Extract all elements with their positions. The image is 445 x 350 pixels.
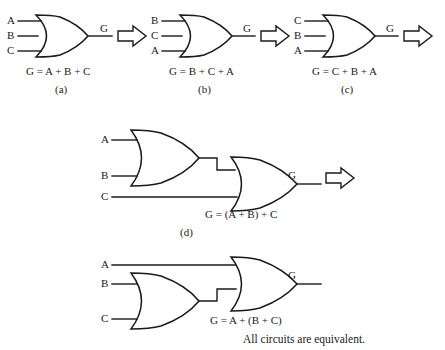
logic-circuit-figure: A B C G G = A + B + C (a) B C A G G = B … xyxy=(0,0,445,350)
circuit-a-input-label-3: C xyxy=(7,45,14,56)
circuit-b-input-label-1: B xyxy=(151,15,158,26)
circuit-e-output-label: G xyxy=(288,270,296,281)
circuit-a-gate xyxy=(36,15,88,57)
circuit-e-input-label-2: B xyxy=(101,278,108,289)
arrow-d-to-e xyxy=(326,168,354,188)
circuit-e-interconnect xyxy=(199,289,236,301)
circuit-e-equation: G = A + (B + C) xyxy=(210,315,282,326)
circuit-e-gate-1 xyxy=(131,273,199,329)
circuit-d-output-label: G xyxy=(288,170,296,181)
circuit-e-input-label-3: C xyxy=(101,313,108,324)
circuit-c-input-label-1: C xyxy=(294,15,301,26)
circuit-d-equation: G = (A + B) + C xyxy=(205,209,277,220)
circuit-b-equation: G = B + C + A xyxy=(169,66,234,77)
circuit-e-stage1-wires xyxy=(112,284,137,319)
circuit-c-equation: G = C + B + A xyxy=(312,66,377,77)
circuit-c-gate xyxy=(323,15,375,57)
circuit-d-gate-1 xyxy=(131,130,199,186)
circuit-c-caption: (c) xyxy=(341,84,353,95)
circuit-d-gate-2 xyxy=(231,157,297,211)
circuit-a-caption: (a) xyxy=(55,84,67,95)
arrow-c-to-d xyxy=(404,26,432,46)
circuit-c-output-label: G xyxy=(386,23,394,34)
circuit-d-interconnect xyxy=(199,158,235,170)
circuit-d-input-label-2: B xyxy=(101,170,108,181)
circuit-e-input-label-1: A xyxy=(101,259,109,270)
circuit-c-input-label-3: A xyxy=(294,45,302,56)
circuit-b-output-label: G xyxy=(243,23,251,34)
arrow-b-to-c xyxy=(261,26,289,46)
circuit-a-equation: G = A + B + C xyxy=(26,66,90,77)
circuit-d-stage1-wires xyxy=(112,140,137,176)
circuit-drawing-canvas xyxy=(0,0,445,350)
circuit-d-input-label-3: C xyxy=(101,191,108,202)
arrow-a-to-b xyxy=(118,26,146,46)
equivalence-note: All circuits are equivalent. xyxy=(243,334,365,346)
circuit-a-input-label-2: B xyxy=(7,30,14,41)
circuit-e-gate-2 xyxy=(231,257,297,311)
circuit-b-gate xyxy=(180,15,232,57)
circuit-b-caption: (b) xyxy=(198,84,211,95)
circuit-d-caption: (d) xyxy=(180,227,193,238)
circuit-b-input-label-3: A xyxy=(151,45,159,56)
circuit-d-input-label-1: A xyxy=(101,134,109,145)
circuit-b-input-label-2: C xyxy=(151,30,158,41)
circuit-a-output-label: G xyxy=(100,23,108,34)
circuit-a-input-label-1: A xyxy=(7,15,15,26)
circuit-c-input-label-2: B xyxy=(294,30,301,41)
